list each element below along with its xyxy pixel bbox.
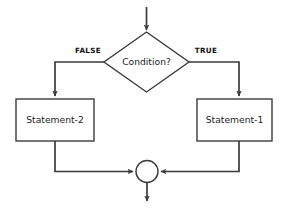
false-branch-connector — [55, 62, 104, 96]
false-branch-label: FALSE — [75, 46, 101, 55]
left-merge-connector — [55, 141, 133, 172]
decision-label: Condition? — [122, 56, 171, 67]
statement-2-label: Statement-2 — [26, 114, 84, 125]
flowchart-canvas: Condition? FALSE TRUE Statement-2 Statem… — [0, 0, 289, 211]
true-branch-connector — [189, 62, 239, 96]
statement-1-label: Statement-1 — [206, 114, 264, 125]
true-branch-label: TRUE — [195, 46, 217, 55]
merge-circle — [136, 161, 158, 183]
flowchart-diagram: Condition? FALSE TRUE Statement-2 Statem… — [0, 0, 289, 211]
right-merge-connector — [161, 141, 239, 172]
